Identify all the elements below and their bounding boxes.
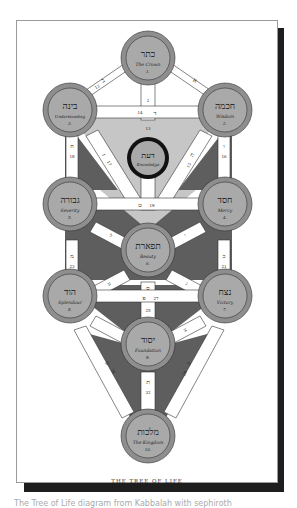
sephira-kether: כתר The Crown 1. xyxy=(121,31,175,85)
path-25-number: 25 xyxy=(145,308,151,313)
sephira-binah: בינה Understanding 3. xyxy=(43,83,97,137)
path-16-number: 16 xyxy=(221,154,227,159)
chokmah-english: Wisdom xyxy=(216,114,234,119)
hod-hebrew: הוד xyxy=(64,287,76,297)
sephira-yesod: יסוד Foundation 9. xyxy=(121,317,175,371)
kether-english: The Crown xyxy=(135,62,160,67)
path-18-number: 18 xyxy=(69,154,75,159)
binah-hebrew: בינה xyxy=(63,101,78,111)
path-32-number: 32 xyxy=(145,390,151,395)
hod-english: Splendour xyxy=(58,300,82,305)
path-19-letter: ט xyxy=(138,201,142,208)
path-13-number: 13 xyxy=(145,126,151,131)
yesod-number: 9. xyxy=(146,355,150,360)
kether-hebrew: כתר xyxy=(141,49,155,59)
malkuth-hebrew: מלכות xyxy=(137,427,159,437)
path-21-number: 21 xyxy=(221,264,226,269)
footer-text: The Tree of Life diagram from Kabbalah w… xyxy=(14,499,294,508)
yesod-english: Foundation xyxy=(134,348,161,353)
kether-number: 1. xyxy=(146,69,150,74)
netzach-hebrew: נצח xyxy=(219,287,232,297)
tiphareth-english: Beauty xyxy=(139,254,156,259)
path-32-letter: ת xyxy=(146,378,150,385)
figure-caption: THE TREE OF LIFE xyxy=(16,478,278,484)
binah-english: Understanding xyxy=(55,114,86,119)
sephira-tiphareth: תפארת Beauty 6. xyxy=(121,223,175,277)
geburah-hebrew: גבורה xyxy=(60,195,79,205)
geburah-english: Severity xyxy=(61,208,80,213)
tree-of-life-diagram: א ב 12 ג 13 ד 14 ה 15 ו 16 ז 17 ח 18 ט 1… xyxy=(0,0,297,508)
geburah-number: 5. xyxy=(68,215,72,220)
chokmah-number: 2. xyxy=(222,121,227,126)
netzach-number: 7. xyxy=(223,307,227,312)
tiphareth-number: 6. xyxy=(146,261,150,266)
path-23-number: 23 xyxy=(69,264,75,269)
sephira-netzach: נצח Victory 7. xyxy=(198,269,252,323)
path-27-number: 27 xyxy=(153,296,159,301)
path-14-number: 14 xyxy=(137,110,143,115)
netzach-english: Victory xyxy=(217,300,234,305)
binah-number: 3. xyxy=(68,121,72,126)
daath-english: Knowledge xyxy=(136,162,160,167)
path-25-letter: ס xyxy=(146,284,150,291)
path-14-letter: ד xyxy=(154,109,157,116)
hod-number: 8. xyxy=(68,307,72,312)
path-21-letter: כ xyxy=(223,252,226,259)
sephira-geburah: גבורה Severity 5. xyxy=(43,177,97,231)
path-18-letter: ח xyxy=(70,142,74,149)
malkuth-english: The Kingdom xyxy=(133,440,163,445)
path-12 xyxy=(86,64,128,96)
path-27-letter: פ xyxy=(142,294,145,301)
path-11 xyxy=(168,64,210,96)
yesod-hebrew: יסוד xyxy=(141,335,155,345)
sephira-malkuth: מלכות The Kingdom 10. xyxy=(121,409,175,463)
malkuth-number: 10. xyxy=(145,447,151,452)
sephira-chokmah: חכמה Wisdom 2. xyxy=(198,83,252,137)
chesed-number: 4. xyxy=(222,215,227,220)
daath-hebrew: דעת xyxy=(141,151,154,160)
sephira-daath: דעת Knowledge xyxy=(127,137,169,179)
sephira-hod: הוד Splendour 8. xyxy=(43,269,97,323)
sephira-chesed: חסד Mercy 4. xyxy=(198,177,252,231)
tiphareth-hebrew: תפארת xyxy=(135,241,161,251)
path-19-number: 19 xyxy=(149,203,155,208)
path-23-letter: מ xyxy=(70,252,74,259)
path-14 xyxy=(95,106,203,118)
chokmah-hebrew: חכמה xyxy=(215,101,235,111)
path-27 xyxy=(95,290,203,302)
chesed-hebrew: חסד xyxy=(218,195,233,205)
path-13-letter: ג xyxy=(147,96,149,103)
chesed-english: Mercy xyxy=(217,208,233,213)
